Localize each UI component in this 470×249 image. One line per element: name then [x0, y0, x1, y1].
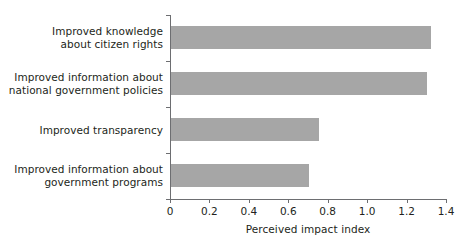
- category-label-line: Improved information about: [0, 71, 163, 84]
- bar-chart: Improved knowledgeabout citizen rightsIm…: [0, 0, 470, 249]
- category-label-line: Improved information about: [0, 163, 163, 176]
- bar-row: [171, 107, 446, 153]
- y-axis-tick: [166, 153, 170, 154]
- plot-area: [170, 15, 446, 199]
- x-axis-tick-label: 1.0: [359, 205, 376, 217]
- bar: [171, 72, 427, 95]
- x-axis-tick: [328, 199, 329, 203]
- category-label: Improved information aboutgovernment pro…: [0, 163, 163, 189]
- x-axis-title: Perceived impact index: [170, 223, 446, 235]
- category-label: Improved information aboutnational gover…: [0, 71, 163, 97]
- x-axis-tick: [170, 199, 171, 203]
- category-label-line: about citizen rights: [0, 38, 163, 51]
- bar-row: [171, 61, 446, 107]
- category-label: Improved transparency: [0, 124, 163, 137]
- bar: [171, 26, 431, 49]
- x-axis-tick: [209, 199, 210, 203]
- y-axis-tick: [166, 15, 170, 16]
- x-axis-tick-label: 0.2: [201, 205, 218, 217]
- x-axis-tick-label: 0.6: [280, 205, 297, 217]
- category-label: Improved knowledgeabout citizen rights: [0, 25, 163, 51]
- x-axis-line: [170, 199, 446, 200]
- category-label-line: national government policies: [0, 84, 163, 97]
- y-axis-tick: [166, 107, 170, 108]
- x-axis-tick-label: 1.4: [438, 205, 455, 217]
- x-axis-tick: [367, 199, 368, 203]
- category-label-line: government programs: [0, 176, 163, 189]
- bar: [171, 164, 309, 187]
- bar-row: [171, 15, 446, 61]
- category-label-line: Improved knowledge: [0, 25, 163, 38]
- x-axis-tick: [249, 199, 250, 203]
- x-axis-tick-label: 1.2: [398, 205, 415, 217]
- x-axis-tick-label: 0.8: [319, 205, 336, 217]
- x-axis-tick: [407, 199, 408, 203]
- x-axis-tick-label: 0.4: [240, 205, 257, 217]
- bar-row: [171, 153, 446, 199]
- x-axis-tick-label: 0: [167, 205, 174, 217]
- bar: [171, 118, 319, 141]
- x-axis-tick: [446, 199, 447, 203]
- category-axis-labels: Improved knowledgeabout citizen rightsIm…: [0, 15, 163, 199]
- x-axis-tick: [288, 199, 289, 203]
- y-axis-tick: [166, 61, 170, 62]
- category-label-line: Improved transparency: [0, 124, 163, 137]
